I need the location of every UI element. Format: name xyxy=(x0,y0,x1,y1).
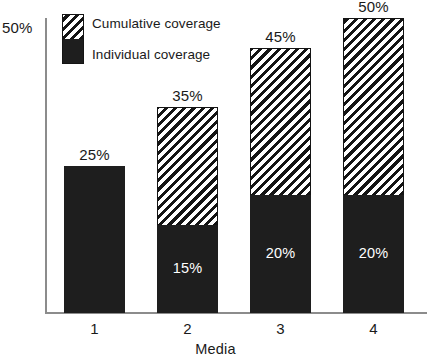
legend-item-cumulative-coverage: Cumulative coverage xyxy=(92,16,221,31)
bar-media-3: 20% xyxy=(250,48,311,314)
y-axis-line xyxy=(45,18,47,314)
bar-value-label-individual-3: 20% xyxy=(250,245,311,261)
bar-media-4: 20% xyxy=(343,18,404,313)
x-axis-tick-label-1: 1 xyxy=(64,320,125,337)
bar-value-label-total-2: 35% xyxy=(157,87,218,104)
stacked-bar-chart: 50% Cumulative coverage Individual cover… xyxy=(0,0,431,364)
bar-value-label-individual-4: 20% xyxy=(343,245,404,261)
bar-value-label-total-3: 45% xyxy=(250,28,311,45)
x-axis-tick-label-3: 3 xyxy=(250,320,311,337)
bar-media-2: 15% xyxy=(157,107,218,314)
bar-segment-cumulative-2 xyxy=(157,107,218,225)
bar-segment-individual-3: 20% xyxy=(250,195,311,313)
legend-swatch-hatch-icon xyxy=(63,15,83,39)
bar-segment-cumulative-4 xyxy=(343,18,404,195)
bar-value-label-total-1: 25% xyxy=(64,146,125,163)
bar-segment-individual-2: 15% xyxy=(157,225,218,314)
legend-swatch-solid-icon xyxy=(63,39,83,63)
bar-value-label-total-4: 50% xyxy=(343,0,404,15)
legend-label-list: Cumulative coverage Individual coverage xyxy=(92,14,221,64)
legend-item-individual-coverage: Individual coverage xyxy=(92,47,221,62)
chart-legend: Cumulative coverage Individual coverage xyxy=(62,14,221,64)
bar-segment-individual-4: 20% xyxy=(343,195,404,313)
x-axis-tick-label-2: 2 xyxy=(157,320,218,337)
x-axis-title: Media xyxy=(0,341,431,357)
y-axis-tick-label-50: 50% xyxy=(2,19,33,36)
bar-segment-individual-1: 25% xyxy=(64,166,125,314)
bar-media-1: 25% xyxy=(64,166,125,314)
bar-segment-cumulative-3 xyxy=(250,48,311,196)
bar-value-label-individual-2: 15% xyxy=(157,260,218,276)
legend-swatch xyxy=(62,14,84,64)
x-axis-tick-label-4: 4 xyxy=(343,320,404,337)
